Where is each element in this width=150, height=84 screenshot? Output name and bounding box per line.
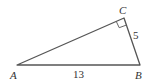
vertex-label-a: A — [9, 69, 17, 81]
side-label-ab: 13 — [73, 68, 85, 80]
triangle-diagram: A B C 5 13 — [0, 0, 150, 84]
vertex-label-c: C — [119, 4, 127, 16]
vertex-label-b: B — [135, 69, 142, 81]
triangle-abc — [17, 18, 140, 65]
side-label-bc: 5 — [133, 29, 139, 41]
right-angle-marker — [116, 22, 126, 28]
